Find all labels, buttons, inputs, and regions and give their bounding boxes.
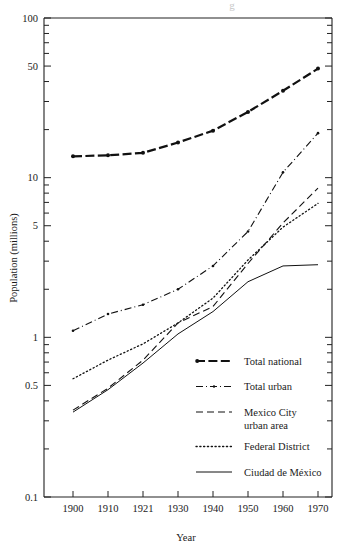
- series-total-national: [71, 67, 320, 159]
- y-axis-tick-labels: 1005010510.50.1: [22, 13, 38, 503]
- data-point: [282, 171, 285, 174]
- chart-figure: g 1005010510.50.1 1900191019211930194019…: [0, 0, 349, 546]
- data-point: [247, 230, 250, 233]
- series-mexico-city-urban-area: [73, 188, 318, 410]
- data-point: [211, 129, 215, 133]
- data-point: [212, 265, 215, 268]
- data-point: [316, 67, 320, 71]
- y-tick-label: 100: [22, 13, 38, 24]
- y-tick-label: 0.1: [25, 492, 38, 503]
- y-tick-label: 5: [33, 220, 38, 231]
- data-point: [107, 313, 110, 316]
- legend-item-label: Ciudad de México: [244, 467, 322, 478]
- data-point: [141, 151, 145, 155]
- legend-item-label: Total national: [244, 356, 302, 367]
- x-tick-label: 1921: [133, 503, 154, 514]
- plot-frame: [44, 18, 332, 497]
- y-tick-label: 1: [33, 332, 38, 343]
- x-tick-label: 1950: [238, 503, 259, 514]
- y-tick-label: 0.5: [25, 380, 38, 391]
- chart-legend: Total nationalTotal urbanMexico Cityurba…: [195, 356, 321, 478]
- data-point: [177, 288, 180, 291]
- x-tick-label: 1900: [63, 503, 84, 514]
- y-tick-label: 50: [28, 61, 39, 72]
- y-tick-label: 10: [28, 172, 39, 183]
- x-tick-label: 1940: [203, 503, 224, 514]
- x-axis-tick-labels: 19001910192119301940195019601970: [63, 503, 329, 514]
- legend-item-label: Total urban: [244, 381, 293, 392]
- legend-item-label-line2: urban area: [244, 420, 288, 431]
- data-point: [317, 132, 320, 135]
- data-point: [71, 154, 75, 158]
- legend-marker: [213, 385, 215, 387]
- cropped-title-artifact: g: [229, 0, 235, 11]
- x-axis-ticks: [73, 491, 318, 497]
- data-point: [176, 141, 180, 145]
- x-tick-label: 1960: [273, 503, 294, 514]
- population-log-chart: g 1005010510.50.1 1900191019211930194019…: [0, 0, 349, 546]
- y-axis-title: Population (millions): [8, 213, 20, 303]
- data-point: [72, 329, 75, 332]
- y-axis-ticks: [44, 18, 332, 497]
- x-tick-label: 1910: [98, 503, 119, 514]
- legend-marker: [195, 359, 199, 363]
- series-total-urban: [72, 132, 320, 332]
- x-tick-label: 1970: [308, 503, 329, 514]
- data-point: [246, 110, 250, 114]
- series-federal-district: [73, 203, 318, 378]
- data-point: [106, 153, 110, 157]
- data-point: [281, 89, 285, 93]
- data-point: [142, 303, 145, 306]
- legend-item-label: Federal District: [244, 441, 310, 452]
- x-tick-label: 1930: [168, 503, 189, 514]
- x-axis-title: Year: [176, 532, 196, 543]
- legend-item-label: Mexico City: [244, 407, 298, 418]
